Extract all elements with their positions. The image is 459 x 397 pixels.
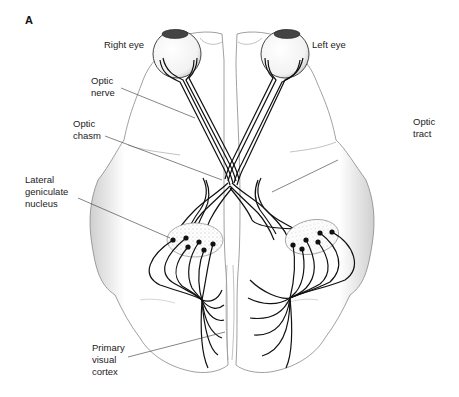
brain-diagram [0,0,459,397]
visual-pathway-figure: A Right eye Left eye Optic nerve Optic c… [0,0,459,397]
label-lateral-geniculate-nucleus: Lateral geniculate nucleus [25,174,68,210]
label-optic-tract: Optic tract [413,116,435,140]
label-optic-chiasm: Optic chasm [73,118,101,142]
label-primary-visual-cortex: Primary visual cortex [92,342,125,378]
label-optic-nerve: Optic nerve [91,75,115,99]
label-left-eye: Left eye [312,39,346,51]
panel-letter: A [25,14,33,26]
label-right-eye: Right eye [104,39,144,51]
